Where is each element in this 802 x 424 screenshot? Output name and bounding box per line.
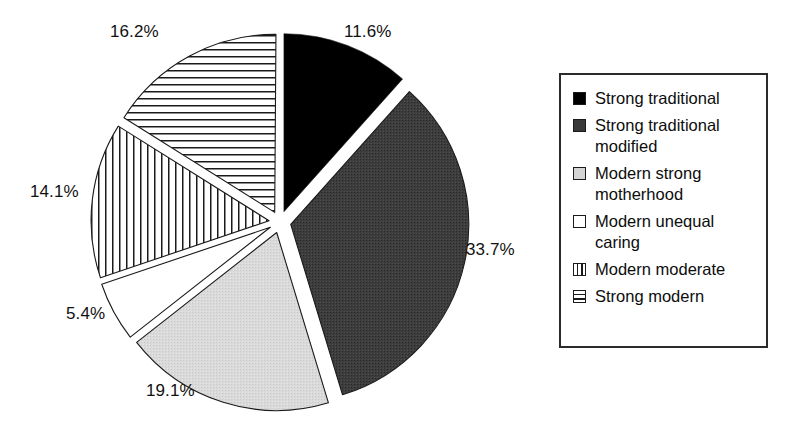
- legend-items: Strong traditionalStrong traditional mod…: [573, 88, 760, 313]
- pct-label-modern-moderate: 14.1%: [30, 182, 79, 202]
- chart-page: 11.6% 33.7% 19.1% 5.4% 14.1% 16.2% Stron…: [0, 0, 802, 424]
- legend-swatch-horizontal-lines-icon: [573, 290, 586, 303]
- pie-slice-group: [91, 34, 469, 411]
- legend-item[interactable]: Modern moderate: [573, 259, 760, 280]
- pct-label-modern-unequal-caring: 5.4%: [66, 304, 105, 324]
- legend-swatch-solid-black-icon: [573, 92, 586, 105]
- pct-label-modern-strong-motherhood: 19.1%: [146, 381, 195, 401]
- legend-swatch-vertical-lines-icon: [573, 263, 586, 276]
- pie-chart: [0, 0, 540, 424]
- pct-label-strong-traditional-modified: 33.7%: [466, 240, 515, 260]
- legend-item[interactable]: Strong modern: [573, 286, 760, 307]
- legend-item-label: Strong traditional: [595, 88, 720, 109]
- legend-item[interactable]: Strong traditional: [573, 88, 760, 109]
- legend-item[interactable]: Strong traditional modified: [573, 115, 760, 157]
- pct-label-strong-traditional: 11.6%: [344, 22, 391, 42]
- legend-swatch-dark-gray-icon: [573, 119, 586, 132]
- legend-item-label: Strong modern: [595, 286, 704, 307]
- legend-item-label: Modern unequal caring: [595, 211, 714, 253]
- legend-item[interactable]: Modern strong motherhood: [573, 163, 760, 205]
- legend-item-label: Strong traditional modified: [595, 115, 720, 157]
- legend-item-label: Modern moderate: [595, 259, 725, 280]
- legend-item-label: Modern strong motherhood: [595, 163, 701, 205]
- legend-item[interactable]: Modern unequal caring: [573, 211, 760, 253]
- chart-legend: Strong traditionalStrong traditional mod…: [559, 73, 768, 348]
- legend-swatch-light-gray-icon: [573, 167, 586, 180]
- pct-label-strong-modern: 16.2%: [110, 22, 159, 42]
- legend-swatch-white-icon: [573, 215, 586, 228]
